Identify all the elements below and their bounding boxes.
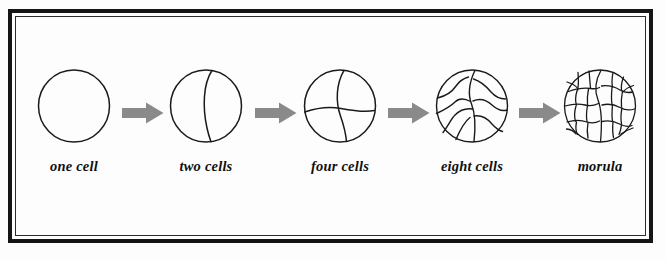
arrow-four-to-eight	[388, 102, 430, 124]
stage-one-cell: one cell	[28, 60, 120, 190]
two-cell-diagram	[160, 60, 252, 152]
stage-label-morula: morula	[554, 158, 646, 175]
arrow-one-to-two	[122, 102, 164, 124]
stage-morula: morula	[554, 60, 646, 190]
stage-four-cells: four cells	[294, 60, 386, 190]
stage-label-eight-cells: eight cells	[426, 158, 518, 175]
one-cell-diagram	[28, 60, 120, 152]
stage-two-cells: two cells	[160, 60, 252, 190]
morula-diagram	[554, 60, 646, 152]
stage-label-one-cell: one cell	[28, 158, 120, 175]
stage-sequence: one cell two cells	[18, 60, 646, 190]
four-cell-diagram	[294, 60, 386, 152]
stage-eight-cells: eight cells	[426, 60, 518, 190]
arrow-eight-to-morula	[519, 102, 561, 124]
eight-cell-diagram	[426, 60, 518, 152]
stage-label-two-cells: two cells	[160, 158, 252, 175]
arrow-two-to-four	[255, 102, 297, 124]
stage-label-four-cells: four cells	[294, 158, 386, 175]
cleavage-stages-figure: one cell two cells	[0, 0, 666, 261]
